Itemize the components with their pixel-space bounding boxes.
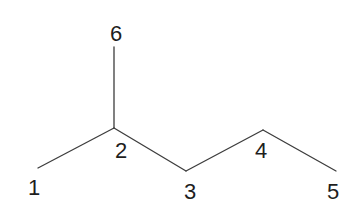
carbon-number-label-4: 4 bbox=[255, 138, 267, 163]
bond-c4-c5 bbox=[263, 130, 336, 171]
carbon-number-label-3: 3 bbox=[184, 179, 196, 204]
carbon-number-label-2: 2 bbox=[115, 138, 127, 163]
skeletal-structure-diagram: 123456 bbox=[0, 0, 348, 213]
bond-c1-c2 bbox=[38, 128, 114, 168]
bond-c3-c4 bbox=[186, 130, 263, 171]
carbon-number-label-1: 1 bbox=[28, 175, 40, 200]
carbon-number-label-6: 6 bbox=[110, 21, 122, 46]
molecule-figure: 123456 bbox=[0, 0, 348, 213]
carbon-number-label-5: 5 bbox=[327, 179, 339, 204]
